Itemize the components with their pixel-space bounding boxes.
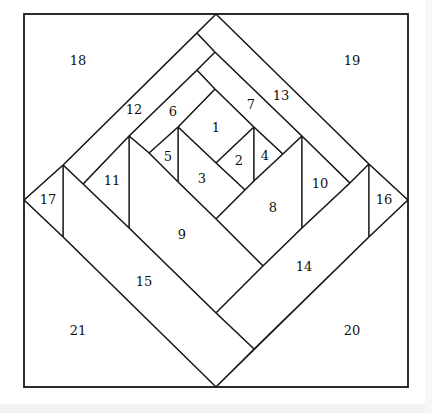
piece-label-4: 4 <box>261 148 269 163</box>
quilt-block-diagram: 123456789101112131415161718192021 <box>0 0 432 413</box>
piece-label-8: 8 <box>269 200 277 215</box>
piece-label-11: 11 <box>104 173 121 188</box>
right-margin <box>425 0 432 413</box>
piece-label-21: 21 <box>70 323 87 338</box>
piece-label-19: 19 <box>344 53 361 68</box>
piece-label-9: 9 <box>178 227 186 242</box>
piece-label-16: 16 <box>376 192 393 207</box>
piece-label-14: 14 <box>296 259 313 274</box>
piece-label-5: 5 <box>164 149 172 164</box>
piece-label-3: 3 <box>198 171 206 186</box>
piece-label-6: 6 <box>169 104 177 119</box>
piece-label-2: 2 <box>235 153 243 168</box>
piece-label-12: 12 <box>126 102 143 117</box>
piece-label-7: 7 <box>247 97 255 112</box>
piece-label-10: 10 <box>312 176 329 191</box>
piece-label-17: 17 <box>40 192 57 207</box>
piece-label-20: 20 <box>344 323 361 338</box>
piece-label-1: 1 <box>212 120 220 135</box>
piece-label-15: 15 <box>136 274 153 289</box>
piece-label-18: 18 <box>70 53 87 68</box>
bottom-margin <box>0 404 432 413</box>
piece-label-13: 13 <box>273 88 290 103</box>
